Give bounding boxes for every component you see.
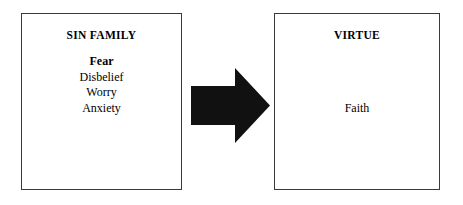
sin-family-box-content: SIN FAMILY Fear Disbelief Worry Anxiety xyxy=(22,14,181,189)
list-item: Fear xyxy=(22,54,181,70)
list-item: Anxiety xyxy=(22,101,181,117)
list-item: Worry xyxy=(22,85,181,101)
virtue-box: VIRTUE Faith xyxy=(274,13,440,190)
virtue-box-content: VIRTUE Faith xyxy=(275,14,439,189)
arrow-right-block-icon xyxy=(191,66,271,145)
list-item: Disbelief xyxy=(22,70,181,86)
sin-family-title: SIN FAMILY xyxy=(22,30,181,42)
sin-family-list: Fear Disbelief Worry Anxiety xyxy=(22,54,181,116)
virtue-value: Faith xyxy=(275,101,439,117)
virtue-title: VIRTUE xyxy=(275,30,439,42)
sin-family-box: SIN FAMILY Fear Disbelief Worry Anxiety xyxy=(21,13,182,190)
sin-to-virtue-diagram: SIN FAMILY Fear Disbelief Worry Anxiety … xyxy=(0,0,463,205)
